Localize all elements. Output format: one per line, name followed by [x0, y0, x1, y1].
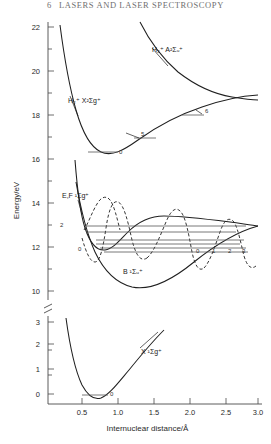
vib-level-B-v3: 3: [242, 248, 245, 254]
y-tick-1: 1: [20, 365, 40, 374]
y-tick-20: 20: [20, 67, 40, 76]
vib-level-B-v1: 1: [212, 248, 215, 254]
x-tick-0-5: 0.5: [72, 408, 92, 417]
potential-curves: [60, 22, 258, 398]
axes-lines: [48, 22, 262, 404]
x-tick-2-5: 2.5: [216, 408, 236, 417]
x-tick-3-0: 3.0: [248, 408, 268, 417]
state-label-B: B ¹Σᵤ⁺: [123, 268, 143, 275]
y-tick-14: 14: [20, 199, 40, 208]
y-tick-22: 22: [20, 23, 40, 32]
curve-EF: [75, 160, 258, 250]
state-label-h2plus-X: H₂⁺ X²Σg⁺: [68, 97, 101, 104]
potential-energy-curve-figure: 6LASERS AND LASER SPECTROSCOPY: [0, 0, 271, 444]
curve-X: [66, 318, 164, 398]
x-axis-ticks: [82, 398, 258, 404]
vib-level-h2plusX-v0: 0: [119, 149, 122, 155]
curve-h2plus-A: [140, 22, 258, 100]
vib-level-B-v2: 2: [228, 248, 231, 254]
state-label-X: X ¹Σg⁺: [141, 348, 162, 355]
x-tick-1-5: 1.5: [144, 408, 164, 417]
x-axis-title: Internuclear distance/Å: [40, 424, 255, 433]
y-axis-break: [44, 304, 52, 313]
vib-level-h2plusX-v5: 5: [141, 131, 144, 137]
state-label-h2plus-A: H₂⁺ A²Σᵤ⁺: [152, 46, 183, 53]
state-label-EF: E,F ¹Σg⁺: [62, 192, 89, 199]
y-tick-10: 10: [20, 287, 40, 296]
x-tick-1-0: 1.0: [108, 408, 128, 417]
y-tick-18: 18: [20, 111, 40, 120]
vib-level-h2plusX-v6: 6: [205, 108, 208, 114]
x-tick-2-0: 2.0: [180, 408, 200, 417]
y-tick-3: 3: [20, 318, 40, 327]
vib-level-EF-v0: 0: [78, 246, 81, 252]
wavefunction-traces: [82, 197, 256, 269]
y-tick-0: 0: [20, 390, 40, 399]
curve-h2plus-X: [60, 25, 258, 154]
leader-v6: [196, 110, 202, 114]
vibrational-level-lines: [82, 115, 248, 395]
leader-v5: [126, 133, 139, 138]
y-tick-16: 16: [20, 155, 40, 164]
y-tick-12: 12: [20, 243, 40, 252]
vib-level-X-v0: 0: [110, 391, 113, 397]
y-axis-ticks: [48, 27, 54, 394]
vib-level-B-v0: 0: [196, 248, 199, 254]
vib-level-EF-v2: 2: [60, 222, 63, 228]
y-tick-2: 2: [20, 340, 40, 349]
plot-canvas: [0, 0, 271, 444]
leader-lines: [70, 48, 202, 348]
